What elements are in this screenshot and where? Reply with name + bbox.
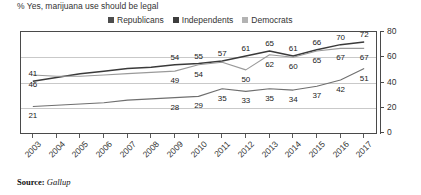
series-lines: [21, 32, 376, 133]
data-label-democrats-2011: 57: [218, 49, 227, 58]
data-label-democrats-2016: 70: [336, 32, 345, 41]
data-label-democrats-2015: 66: [312, 37, 321, 46]
x-tick-label-2003: 2003: [22, 139, 42, 159]
x-tick-label-2008: 2008: [141, 139, 161, 159]
chart-container: % Yes, marijuana use should be legal Rep…: [0, 0, 421, 195]
x-tick-label-2016: 2016: [330, 139, 350, 159]
data-label-independents-2009: 49: [170, 76, 179, 85]
x-tick-label-2012: 2012: [235, 139, 255, 159]
x-tick-mark-2011: [221, 134, 222, 138]
data-label-democrats-2012: 61: [241, 43, 250, 52]
x-tick-mark-2017: [363, 134, 364, 138]
data-label-democrats-2013: 65: [265, 38, 274, 47]
x-tick-label-2006: 2006: [93, 139, 113, 159]
x-tick-mark-2013: [269, 134, 270, 138]
data-label-democrats-2017: 72: [360, 30, 369, 39]
legend-item-democrats: Democrats: [242, 15, 292, 25]
y-tick-label-40: 40: [387, 77, 396, 87]
y-tick-label-20: 20: [387, 102, 396, 112]
x-tick-mark-2008: [150, 134, 151, 138]
x-tick-label-2009: 2009: [164, 139, 184, 159]
x-tick-label-2010: 2010: [188, 139, 208, 159]
chart-subtitle: % Yes, marijuana use should be legal: [17, 1, 158, 11]
data-label-democrats-2009: 54: [170, 52, 179, 61]
x-tick-mark-2010: [198, 134, 199, 138]
x-tick-mark-2005: [79, 134, 80, 138]
legend-swatch-democrats: [242, 17, 248, 23]
legend-label-independents: Independents: [182, 15, 234, 25]
y-tick-mark-0: [380, 132, 384, 133]
y-tick-mark-80: [380, 31, 384, 32]
x-tick-label-2004: 2004: [46, 139, 66, 159]
data-label-democrats-2010: 55: [194, 51, 203, 60]
x-tick-mark-2016: [340, 134, 341, 138]
legend-swatch-republicans: [108, 17, 114, 23]
data-label-independents-2003: 46: [28, 79, 37, 88]
data-label-republicans-2015: 37: [312, 91, 321, 100]
data-label-independents-2017: 67: [360, 53, 369, 62]
x-tick-label-2014: 2014: [283, 139, 303, 159]
x-tick-label-2007: 2007: [117, 139, 137, 159]
data-label-democrats-2014: 61: [289, 43, 298, 52]
x-tick-label-2011: 2011: [212, 139, 232, 159]
data-label-independents-2013: 62: [265, 59, 274, 68]
y-tick-label-60: 60: [387, 51, 396, 61]
x-axis-labels: 2003200420052006200720082009201020112012…: [20, 139, 377, 173]
x-tick-mark-2015: [316, 134, 317, 138]
data-label-republicans-2016: 42: [336, 84, 345, 93]
x-tick-mark-2006: [103, 134, 104, 138]
data-label-independents-2012: 50: [241, 74, 250, 83]
y-axis: 020406080: [380, 31, 418, 134]
y-tick-mark-20: [380, 107, 384, 108]
x-tick-mark-2007: [127, 134, 128, 138]
legend-label-republicans: Republicans: [117, 15, 164, 25]
data-label-independents-2016: 67: [336, 53, 345, 62]
y-tick-label-80: 80: [387, 26, 396, 36]
data-label-independents-2015: 65: [312, 55, 321, 64]
data-label-republicans-2011: 35: [218, 93, 227, 102]
x-tick-label-2015: 2015: [306, 139, 326, 159]
x-tick-mark-2004: [56, 134, 57, 138]
data-label-republicans-2014: 34: [289, 95, 298, 104]
y-tick-mark-60: [380, 56, 384, 57]
plot-area: 4154555761656166707246495450626065676721…: [20, 31, 377, 134]
x-tick-mark-2012: [245, 134, 246, 138]
source-name: Gallup: [47, 177, 71, 187]
data-label-republicans-2010: 29: [194, 101, 203, 110]
x-tick-mark-2003: [32, 134, 33, 138]
data-label-republicans-2009: 28: [170, 102, 179, 111]
y-tick-mark-40: [380, 82, 384, 83]
data-label-republicans-2012: 33: [241, 96, 250, 105]
legend-item-republicans: Republicans: [108, 15, 164, 25]
x-tick-label-2013: 2013: [259, 139, 279, 159]
y-tick-label-0: 0: [387, 127, 392, 137]
x-tick-mark-2014: [292, 134, 293, 138]
legend-item-independents: Independents: [173, 15, 234, 25]
x-tick-label-2017: 2017: [354, 139, 374, 159]
chart-legend: Republicans Independents Democrats: [108, 15, 292, 25]
y-axis-spine: [380, 31, 381, 134]
legend-label-democrats: Democrats: [251, 15, 292, 25]
data-label-independents-2014: 60: [289, 62, 298, 71]
x-tick-mark-2009: [174, 134, 175, 138]
source-note: Source: Gallup: [17, 177, 70, 187]
source-prefix: Source:: [17, 177, 45, 187]
x-tick-label-2005: 2005: [70, 139, 90, 159]
data-label-republicans-2003: 21: [28, 111, 37, 120]
legend-swatch-independents: [173, 17, 179, 23]
data-label-independents-2010: 54: [194, 69, 203, 78]
data-label-republicans-2017: 51: [360, 73, 369, 82]
data-label-republicans-2013: 35: [265, 93, 274, 102]
data-label-democrats-2003: 41: [28, 69, 37, 78]
